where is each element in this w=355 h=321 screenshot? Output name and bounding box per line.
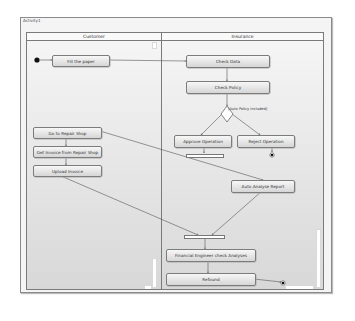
action-fill-the-paper[interactable]: Fill the paper: [52, 55, 110, 67]
action-approve-operation[interactable]: Approve Operation: [174, 135, 232, 148]
initial-node-icon: [34, 57, 39, 62]
action-check-policy[interactable]: Check Policy: [186, 81, 270, 94]
action-financial-engineer-check[interactable]: Financial Engineer check Analyses: [166, 249, 256, 262]
fork-bar[interactable]: [186, 154, 224, 158]
final-node-icon: [282, 282, 285, 285]
action-refound[interactable]: Refound: [166, 273, 256, 286]
join-bar[interactable]: [184, 235, 225, 239]
action-upload-invoice[interactable]: Upload Invoice: [33, 165, 102, 177]
final-node-icon: [271, 154, 274, 157]
action-go-to-repair-shop[interactable]: Go to Repair Shop: [33, 127, 102, 139]
action-reject-operation[interactable]: Reject Operation: [237, 135, 295, 148]
decision-guard-label: [Auto Policy Included]: [228, 107, 267, 111]
action-auto-analyse-report[interactable]: Auto Analyse Report: [231, 180, 295, 193]
action-check-data[interactable]: Check Data: [186, 55, 270, 68]
action-get-invoice[interactable]: Get Invoice from Repair Shop: [33, 146, 102, 158]
